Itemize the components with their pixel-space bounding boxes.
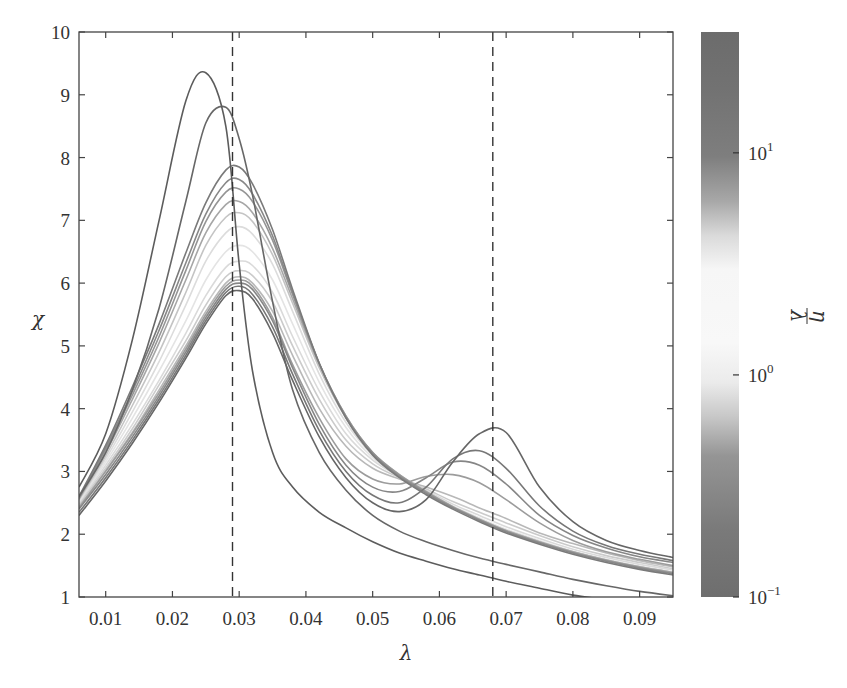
x-tick-label: 0.05: [356, 608, 389, 629]
y-tick-label: 10: [51, 22, 70, 43]
y-tick-label: 4: [61, 399, 71, 420]
x-tick-label: 0.03: [223, 608, 256, 629]
colorbar-tick-label: 10−1: [748, 583, 781, 608]
y-axis-ticks: 12345678910: [51, 22, 673, 608]
x-tick-label: 0.06: [423, 608, 456, 629]
colorbar-label-denominator: λ: [786, 309, 810, 323]
y-tick-label: 8: [61, 148, 71, 169]
y-tick-label: 3: [61, 461, 71, 482]
colorbar-tick-label: 101: [748, 139, 774, 164]
data-curve: [79, 227, 673, 573]
y-tick-label: 5: [61, 336, 71, 357]
x-tick-label: 0.04: [289, 608, 323, 629]
y-tick-label: 2: [61, 524, 71, 545]
x-tick-label: 0.07: [490, 608, 523, 629]
data-curve: [79, 286, 673, 560]
data-curve: [79, 72, 673, 607]
colorbar: [701, 32, 739, 597]
x-tick-label: 0.02: [156, 608, 189, 629]
y-tick-label: 6: [61, 273, 71, 294]
data-curve: [79, 283, 673, 562]
chart: 0.010.020.030.040.050.060.070.080.09 123…: [0, 0, 847, 688]
colorbar-label: η λ: [786, 308, 832, 324]
colorbar-tick-label: 100: [748, 361, 774, 386]
x-axis-label: λ: [399, 641, 413, 665]
colorbar-label-numerator: η: [808, 310, 832, 322]
x-tick-label: 0.09: [623, 608, 656, 629]
y-tick-label: 1: [61, 587, 71, 608]
y-axis-label: χ: [30, 307, 46, 331]
data-curve: [79, 245, 673, 572]
y-tick-label: 9: [61, 85, 71, 106]
x-tick-label: 0.08: [556, 608, 589, 629]
curve-group: [79, 72, 673, 607]
colorbar-ticks: 10110010−1: [733, 139, 781, 608]
y-tick-label: 7: [61, 210, 71, 231]
x-tick-label: 0.01: [89, 608, 122, 629]
